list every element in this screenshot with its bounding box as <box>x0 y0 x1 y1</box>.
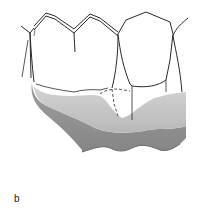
interproximal-line <box>112 34 118 88</box>
panel-label: b <box>14 193 20 204</box>
dental-illustration <box>0 0 197 208</box>
far-right-tooth-edge <box>173 18 188 92</box>
tooth-right <box>118 12 173 87</box>
dental-figure: b <box>0 0 197 208</box>
left-root-line <box>22 40 28 77</box>
molar-crown-left <box>30 12 100 93</box>
gingival-base-top <box>34 86 186 133</box>
